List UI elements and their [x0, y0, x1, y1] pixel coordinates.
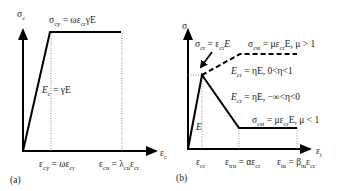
panel-a-tick-ecy: εcy = ωεcr	[39, 159, 75, 171]
panel-b-softening-curve	[188, 75, 297, 149]
panel-a-plateau-label: σcy = ωεcrγE	[49, 15, 96, 27]
panel-b-softening-stress-label: σcst = μεcrE, μ < 1	[252, 115, 319, 127]
panel-a-caption: (a)	[10, 175, 21, 186]
panel-a-compression: σc σcy = ωεcrγE Ec = γE εc εcy = ωεcr εc…	[10, 9, 167, 186]
panel-a-modulus-label: Ec = γE	[41, 85, 71, 97]
panel-a-tick-ecu: εcu = λcuεcr	[99, 159, 140, 171]
panel-b-x-axis-label: εt	[316, 146, 322, 158]
panel-b-tick-ecr: εcr	[196, 157, 206, 169]
panel-b-hardening-modulus-label: Ecr = ηE, 0<η<1	[230, 66, 293, 78]
panel-a-y-axis-label: σc	[17, 9, 25, 21]
panel-b-elastic-modulus-label: E	[195, 122, 202, 132]
panel-b-tick-etrn: εtrn = αεcr	[225, 157, 261, 169]
panel-b-peak-label: σcr = εcrE	[195, 39, 230, 51]
panel-b-caption: (b)	[176, 173, 187, 184]
panel-a-x-axis-label: εc	[160, 148, 167, 160]
panel-b-hardening-stress-label: σcst = μεcrE, μ > 1	[248, 39, 315, 51]
panel-b-tick-etu: εtu = βtuεcr	[277, 157, 316, 169]
panel-b-softening-modulus-label: Ecr = ηE, −∞<η<0	[230, 92, 300, 104]
panel-a-stress-strain-curve	[23, 32, 121, 151]
constitutive-model-diagram: σc σcy = ωεcrγE Ec = γE εc εcy = ωεcr εc…	[0, 0, 339, 191]
panel-b-y-axis-label: σt	[182, 21, 189, 33]
panel-b-tension: σt σcr = εcrE σcst = μεcrE, μ > 1 Ecr = …	[176, 21, 322, 184]
panel-b-peak-pointer-arrow	[201, 52, 212, 67]
